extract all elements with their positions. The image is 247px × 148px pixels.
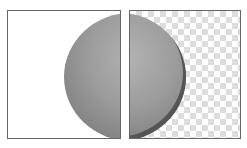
- right-panel-transparent-background: [129, 10, 241, 139]
- left-panel-white-background: [7, 10, 121, 139]
- ball-image-right-half: [129, 13, 186, 139]
- ball-image-left-half: [64, 13, 121, 139]
